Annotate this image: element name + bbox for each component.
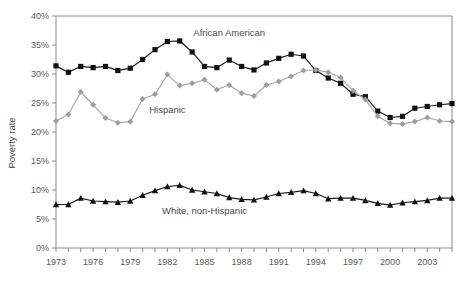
- data-point: [437, 118, 443, 124]
- series-line: [56, 41, 452, 118]
- data-point: [227, 57, 232, 62]
- data-point: [78, 195, 84, 201]
- series-annotation: Hispanic: [149, 104, 186, 115]
- data-point: [437, 102, 442, 107]
- data-point: [128, 66, 133, 71]
- data-point: [301, 53, 306, 58]
- data-point: [53, 63, 58, 68]
- series-layer: [53, 38, 455, 207]
- x-tick-label: 1988: [232, 257, 252, 267]
- data-point: [289, 52, 294, 57]
- data-point: [425, 104, 430, 109]
- data-point: [78, 64, 83, 69]
- data-point: [449, 119, 455, 125]
- data-point: [115, 68, 120, 73]
- series-triangle: [53, 182, 455, 208]
- data-point: [91, 65, 96, 70]
- data-point: [189, 80, 195, 86]
- y-tick-label: 35%: [31, 40, 49, 50]
- x-tick-label: 1991: [269, 257, 289, 267]
- data-point: [387, 120, 393, 126]
- data-point: [127, 119, 133, 125]
- y-tick-label: 20%: [31, 127, 49, 137]
- data-point: [103, 64, 108, 69]
- x-tick-label: 1985: [194, 257, 214, 267]
- x-tick-label: 1997: [343, 257, 363, 267]
- data-point: [325, 69, 331, 75]
- y-tick-label: 30%: [31, 69, 49, 79]
- x-tick-label: 1979: [120, 257, 140, 267]
- data-point: [152, 47, 157, 52]
- series-annotation: White, non-Hispanic: [162, 205, 247, 216]
- x-tick-label: 2000: [380, 257, 400, 267]
- data-point: [190, 49, 195, 54]
- data-point: [152, 91, 158, 97]
- y-tick-label: 0%: [36, 243, 49, 253]
- data-point: [66, 70, 71, 75]
- data-point: [288, 73, 294, 79]
- data-point: [400, 114, 405, 119]
- x-tick-label: 2003: [417, 257, 437, 267]
- data-point: [65, 112, 71, 118]
- y-axis-ticks: 0%5%10%15%20%25%30%35%40%: [31, 11, 56, 253]
- data-point: [115, 120, 121, 126]
- data-point: [140, 57, 145, 62]
- data-point: [326, 75, 331, 80]
- data-point: [165, 39, 170, 44]
- x-tick-label: 1982: [157, 257, 177, 267]
- data-point: [400, 121, 406, 127]
- data-point: [239, 64, 244, 69]
- data-point: [412, 106, 417, 111]
- x-tick-label: 1994: [306, 257, 326, 267]
- chart-canvas: 0%5%10%15%20%25%30%35%40% 19731976197919…: [0, 0, 469, 286]
- data-point: [251, 67, 256, 72]
- data-point: [53, 118, 59, 124]
- y-axis-title: Poverty rate: [6, 117, 17, 168]
- data-point: [226, 82, 232, 88]
- y-tick-label: 25%: [31, 98, 49, 108]
- series-square: [53, 38, 454, 120]
- data-point: [276, 79, 282, 85]
- poverty-rate-chart: 0%5%10%15%20%25%30%35%40% 19731976197919…: [0, 0, 469, 286]
- data-point: [412, 119, 418, 125]
- data-point: [264, 60, 269, 65]
- data-point: [424, 115, 430, 121]
- plot-frame: [56, 16, 452, 248]
- series-annotation: African American: [193, 27, 265, 38]
- data-point: [140, 96, 146, 102]
- data-point: [214, 65, 219, 70]
- data-point: [338, 81, 343, 86]
- x-axis-ticks: 1973197619791982198519881991199419972000…: [46, 248, 452, 267]
- data-point: [301, 68, 307, 74]
- data-point: [239, 90, 245, 96]
- y-tick-label: 5%: [36, 214, 49, 224]
- data-point: [177, 38, 182, 43]
- y-tick-label: 40%: [31, 11, 49, 21]
- data-point: [449, 101, 454, 106]
- series-diamond: [53, 67, 455, 127]
- y-tick-label: 10%: [31, 185, 49, 195]
- x-tick-label: 1973: [46, 257, 66, 267]
- x-tick-label: 1976: [83, 257, 103, 267]
- data-point: [202, 64, 207, 69]
- data-point: [388, 115, 393, 120]
- data-point: [276, 56, 281, 61]
- y-tick-label: 15%: [31, 156, 49, 166]
